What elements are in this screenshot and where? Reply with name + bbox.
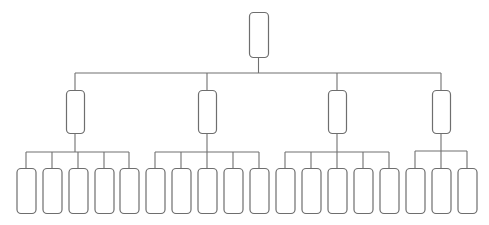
leaf-node-4-1[interactable] (406, 169, 425, 214)
leaf-node-3-4[interactable] (354, 169, 373, 214)
leaf-node-4-3[interactable] (458, 169, 477, 214)
leaf-node-1-2[interactable] (43, 169, 62, 214)
leaf-node-3-1[interactable] (276, 169, 295, 214)
org-chart-svg (0, 0, 489, 225)
level1-node-1[interactable] (67, 91, 85, 134)
org-chart-diagram (0, 0, 489, 225)
leaf-node-3-5[interactable] (380, 169, 399, 214)
connector-lines (26, 57, 467, 168)
leaf-node-1-4[interactable] (95, 169, 114, 214)
leaf-node-2-1[interactable] (146, 169, 165, 214)
leaf-node-2-2[interactable] (172, 169, 191, 214)
leaf-node-4-2[interactable] (432, 169, 451, 214)
leaf-node-2-3[interactable] (198, 169, 217, 214)
root-node[interactable] (250, 13, 269, 58)
leaf-node-3-3[interactable] (328, 169, 347, 214)
level1-node-4[interactable] (433, 91, 451, 134)
leaf-node-2-5[interactable] (250, 169, 269, 214)
leaf-node-2-4[interactable] (224, 169, 243, 214)
level1-node-3[interactable] (329, 91, 347, 134)
leaf-node-1-1[interactable] (17, 169, 36, 214)
leaf-node-1-5[interactable] (120, 169, 139, 214)
leaf-node-3-2[interactable] (302, 169, 321, 214)
nodes (17, 13, 477, 214)
level1-node-2[interactable] (199, 91, 217, 134)
leaf-node-1-3[interactable] (69, 169, 88, 214)
